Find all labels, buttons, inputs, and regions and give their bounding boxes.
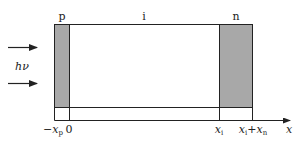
- x-axis-label: x: [286, 123, 293, 136]
- p-region: [55, 25, 70, 108]
- n-label: n: [232, 10, 239, 23]
- i-label: i: [142, 10, 146, 23]
- p-label: p: [58, 10, 65, 23]
- neg-xp-label: −xp: [43, 123, 63, 137]
- photon-energy-label: hν: [15, 60, 29, 73]
- xi-label: xi: [215, 123, 224, 137]
- n-region: [220, 25, 253, 108]
- xi-plus-xn-label: xi+xn: [239, 123, 268, 137]
- zero-label: 0: [66, 123, 73, 136]
- pin-diagram: p i n hν −xp 0 xi xi+xn x: [0, 0, 304, 144]
